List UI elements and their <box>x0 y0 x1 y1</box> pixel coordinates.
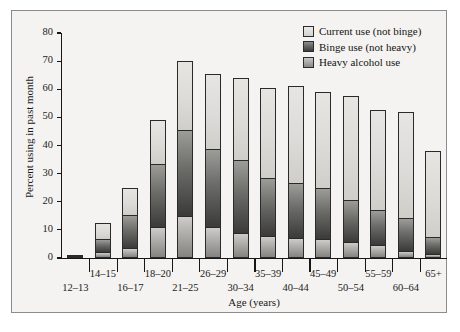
bar-segment <box>233 233 249 258</box>
bar-segment <box>205 227 221 259</box>
bar-segment <box>343 242 359 258</box>
y-tick <box>57 229 61 230</box>
bar-segment <box>425 151 441 237</box>
bar-segment <box>205 74 221 149</box>
bar-26-29 <box>205 74 221 258</box>
bar-18-20 <box>150 120 166 258</box>
y-tick <box>57 201 61 202</box>
bar-segment <box>370 110 386 211</box>
legend-label: Heavy alcohol use <box>319 56 400 68</box>
bar-segment <box>95 223 111 239</box>
bar-65+ <box>425 151 441 258</box>
bar-segment <box>398 112 414 218</box>
plot-area: 01020304050607080 Percent using in past … <box>0 0 460 332</box>
y-tick <box>57 145 61 146</box>
bar-segment <box>398 251 414 258</box>
x-axis-title: Age (years) <box>61 296 447 308</box>
bar-16-17 <box>122 188 138 258</box>
legend-swatch-icon <box>303 57 314 68</box>
y-tick-label: 80 <box>30 27 53 37</box>
bar-45-49 <box>315 92 331 258</box>
y-axis-title: Percent using in past month <box>23 52 35 222</box>
bar-segment <box>150 120 166 164</box>
bar-segment <box>150 164 166 226</box>
bar-segment <box>315 92 331 188</box>
x-tick-label: 40–44 <box>273 282 319 293</box>
bar-segment <box>260 236 276 258</box>
legend-swatch-icon <box>303 26 314 37</box>
bar-segment <box>150 227 166 259</box>
bar-segment <box>233 78 249 160</box>
bar-segment <box>398 218 414 250</box>
bar-segment <box>95 252 111 258</box>
y-tick-label: 0 <box>30 252 53 262</box>
bar-55-59 <box>370 110 386 259</box>
bar-12-13 <box>67 256 83 258</box>
y-tick <box>57 117 61 118</box>
bar-segment <box>67 255 83 256</box>
y-tick <box>57 32 61 33</box>
bar-60-64 <box>398 112 414 258</box>
bar-50-54 <box>343 96 359 258</box>
bar-segment <box>205 149 221 227</box>
y-axis-line <box>61 33 62 259</box>
bar-segment <box>177 130 193 216</box>
bar-segment <box>122 248 138 258</box>
figure-root: 01020304050607080 Percent using in past … <box>0 0 460 332</box>
x-tick-label: 18–20 <box>135 268 181 279</box>
y-tick <box>57 61 61 62</box>
x-tick-label: 65+ <box>410 268 456 279</box>
bar-segment <box>288 86 304 183</box>
y-tick <box>57 257 61 258</box>
bar-segment <box>177 216 193 258</box>
bar-segment <box>260 178 276 237</box>
x-tick-label: 55–59 <box>355 268 401 279</box>
bar-segment <box>425 254 441 258</box>
y-tick <box>57 173 61 174</box>
bar-segment <box>315 239 331 258</box>
bar-segment <box>288 238 304 258</box>
x-tick-label: 14–15 <box>80 268 126 279</box>
x-tick-label: 16–17 <box>107 282 153 293</box>
x-tick-label: 12–13 <box>52 282 98 293</box>
y-tick-label: 10 <box>30 224 53 234</box>
bar-segment <box>343 96 359 200</box>
bar-40-44 <box>288 86 304 258</box>
bar-35-39 <box>260 88 276 258</box>
bar-segment <box>122 215 138 249</box>
legend-item: Heavy alcohol use <box>303 55 421 69</box>
bar-14-15 <box>95 223 111 258</box>
x-tick-label: 35–39 <box>245 268 291 279</box>
legend-label: Binge use (not heavy) <box>319 41 416 53</box>
legend-swatch-icon <box>303 41 314 52</box>
y-tick <box>57 89 61 90</box>
bar-segment <box>288 183 304 238</box>
bar-segment <box>95 239 111 252</box>
x-tick-label: 60–64 <box>383 282 429 293</box>
x-tick-label: 50–54 <box>328 282 374 293</box>
x-tick-label: 26–29 <box>190 268 236 279</box>
bar-segment <box>315 188 331 239</box>
bar-segment <box>370 245 386 259</box>
bar-segment <box>370 210 386 244</box>
x-tick-label: 30–34 <box>218 282 264 293</box>
bar-segment <box>425 237 441 254</box>
bar-30-34 <box>233 78 249 258</box>
x-tick-label: 21–25 <box>162 282 208 293</box>
bar-segment <box>260 88 276 178</box>
bar-21-25 <box>177 61 193 258</box>
bar-segment <box>233 160 249 233</box>
legend-item: Current use (not binge) <box>303 24 421 38</box>
legend-label: Current use (not binge) <box>319 25 421 37</box>
legend-item: Binge use (not heavy) <box>303 40 421 54</box>
legend: Current use (not binge)Binge use (not he… <box>303 24 421 71</box>
bar-segment <box>177 61 193 130</box>
bar-segment <box>122 188 138 214</box>
bar-segment <box>343 200 359 242</box>
x-tick-label: 45–49 <box>300 268 346 279</box>
